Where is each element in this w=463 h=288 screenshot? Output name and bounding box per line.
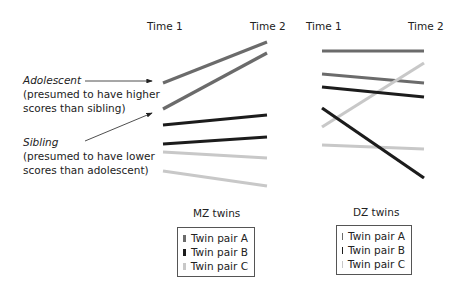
dz-legend-item-a: Twin pair A: [342, 229, 405, 243]
swatch-icon: [183, 263, 186, 270]
dz-pair-b-sibling-line: [322, 108, 424, 178]
swatch-icon: [183, 235, 186, 242]
adolescent-title: Adolescent: [23, 74, 81, 87]
dz-legend-item-b: Twin pair B: [342, 243, 405, 257]
adolescent-desc-2: scores than sibling): [23, 102, 126, 115]
sibling-desc-1: (presumed to have lower: [23, 150, 155, 163]
mz-title: MZ twins: [193, 207, 240, 220]
mz-pair-b-sibling-line: [163, 137, 267, 144]
dz-title: DZ twins: [353, 206, 399, 219]
dz-time2-label: Time 2: [408, 20, 444, 33]
mz-legend-item-c: Twin pair C: [183, 259, 248, 273]
dz-legend: Twin pair A Twin pair B Twin pair C: [336, 225, 412, 275]
dz-time1-label: Time 1: [306, 20, 342, 33]
swatch-icon: [342, 233, 343, 240]
dz-pair-c-adolescent-line: [322, 145, 424, 149]
swatch-icon: [342, 261, 343, 268]
swatch-icon: [342, 247, 343, 254]
mz-pair-c-sibling-line: [163, 171, 267, 186]
adolescent-desc-1: (presumed to have higher: [23, 88, 160, 101]
mz-pair-c-adolescent-line: [163, 152, 267, 158]
mz-legend: Twin pair A Twin pair B Twin pair C: [177, 227, 255, 277]
swatch-icon: [183, 249, 186, 256]
mz-pair-b-adolescent-line: [163, 115, 267, 125]
mz-time2-label: Time 2: [250, 20, 286, 33]
dz-legend-item-c: Twin pair C: [342, 257, 405, 271]
sibling-title: Sibling: [23, 136, 58, 149]
mz-time1-label: Time 1: [147, 20, 183, 33]
sibling-desc-2: scores than adolescent): [23, 164, 149, 177]
sibling-arrow: [85, 113, 152, 141]
mz-legend-item-b: Twin pair B: [183, 245, 248, 259]
dz-pair-a-sibling-line: [322, 74, 424, 83]
mz-legend-item-a: Twin pair A: [183, 231, 248, 245]
